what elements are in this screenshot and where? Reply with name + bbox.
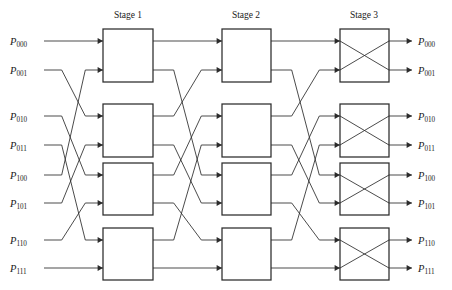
wire-in-1-to-2 bbox=[44, 70, 103, 116]
output-label-001: P001 bbox=[417, 65, 436, 79]
arrowhead-s1s2-3 bbox=[217, 142, 222, 148]
stage-labels-group: Stage 1Stage 2Stage 3 bbox=[114, 10, 378, 20]
wire-s2s3-2-to-1 bbox=[271, 70, 340, 116]
arrowhead-s1s2-2 bbox=[217, 113, 222, 119]
arrowhead-in-6 bbox=[98, 237, 103, 243]
wire-in-6-to-5 bbox=[44, 203, 103, 240]
arrowhead-s1s2-1 bbox=[217, 67, 222, 73]
wire-s1s2-1-to-4 bbox=[153, 70, 222, 175]
wire-s1s2-2-to-1 bbox=[153, 70, 222, 116]
arrowhead-in-1 bbox=[98, 67, 103, 73]
input-label-000: P000 bbox=[9, 36, 28, 50]
arrowhead-in-4 bbox=[98, 172, 103, 178]
wire-s2s3-5-to-6 bbox=[271, 203, 340, 240]
wire-s1s2-3-to-5 bbox=[153, 145, 222, 203]
wire-in-5-to-3 bbox=[44, 145, 103, 203]
output-label-101: P101 bbox=[417, 198, 436, 212]
wire-s2s3-4-to-2 bbox=[271, 116, 340, 175]
arrowhead-in-7 bbox=[98, 265, 103, 271]
wire-s1s2-5-to-6 bbox=[153, 203, 222, 240]
switch-boxes-group bbox=[103, 29, 389, 280]
switch-box-stage1-2[interactable] bbox=[103, 163, 153, 215]
wire-in-3-to-6 bbox=[44, 145, 103, 240]
switch-box-stage2-3[interactable] bbox=[222, 228, 271, 280]
arrowhead-out-2 bbox=[407, 113, 412, 119]
input-label-110: P110 bbox=[9, 235, 27, 249]
arrowhead-s1s2-5 bbox=[217, 200, 222, 206]
switch-box-stage1-0[interactable] bbox=[103, 29, 153, 82]
arrowhead-s2s3-4 bbox=[335, 172, 340, 178]
arrowhead-in-3 bbox=[98, 142, 103, 148]
arrowhead-s2s3-6 bbox=[335, 237, 340, 243]
stage-label-1: Stage 1 bbox=[114, 10, 142, 20]
arrowhead-s2s3-5 bbox=[335, 200, 340, 206]
output-label-110: P110 bbox=[417, 235, 435, 249]
arrowhead-in-5 bbox=[98, 200, 103, 206]
output-label-100: P100 bbox=[417, 170, 436, 184]
arrowhead-out-7 bbox=[407, 265, 412, 271]
arrowhead-out-3 bbox=[407, 142, 412, 148]
output-label-010: P010 bbox=[417, 111, 436, 125]
arrowhead-out-4 bbox=[407, 172, 412, 178]
arrowhead-in-0 bbox=[98, 38, 103, 44]
arrowhead-s1s2-6 bbox=[217, 237, 222, 243]
arrowhead-s2s3-7 bbox=[335, 265, 340, 271]
arrowhead-out-6 bbox=[407, 237, 412, 243]
arrowhead-out-1 bbox=[407, 67, 412, 73]
switch-box-stage2-2[interactable] bbox=[222, 163, 271, 215]
arrowhead-s1s2-7 bbox=[217, 265, 222, 271]
wire-s2s3-6-to-3 bbox=[271, 145, 340, 240]
arrowhead-out-0 bbox=[407, 38, 412, 44]
arrowhead-s2s3-1 bbox=[335, 67, 340, 73]
switch-box-stage1-1[interactable] bbox=[103, 104, 153, 157]
switch-box-stage2-1[interactable] bbox=[222, 104, 271, 157]
input-label-010: P010 bbox=[9, 111, 28, 125]
wire-in-2-to-4 bbox=[44, 116, 103, 175]
output-label-011: P011 bbox=[417, 140, 435, 154]
switch-box-stage1-3[interactable] bbox=[103, 228, 153, 280]
switch-box-stage2-0[interactable] bbox=[222, 29, 271, 82]
wire-s2s3-3-to-5 bbox=[271, 145, 340, 203]
arrowhead-s1s2-0 bbox=[217, 38, 222, 44]
output-label-111: P111 bbox=[417, 263, 435, 277]
wire-in-4-to-1 bbox=[44, 70, 103, 175]
input-label-011: P011 bbox=[9, 140, 27, 154]
arrowhead-s2s3-2 bbox=[335, 113, 340, 119]
input-label-111: P111 bbox=[9, 263, 27, 277]
network-diagram: Stage 1Stage 2Stage 3 P000P001P010P011P1… bbox=[0, 0, 452, 290]
output-label-000: P000 bbox=[417, 36, 436, 50]
stage-label-2: Stage 2 bbox=[232, 10, 260, 20]
wire-s1s2-4-to-2 bbox=[153, 116, 222, 175]
input-label-100: P100 bbox=[9, 170, 28, 184]
wire-s1s2-6-to-3 bbox=[153, 145, 222, 240]
arrowhead-s2s3-3 bbox=[335, 142, 340, 148]
stage-label-3: Stage 3 bbox=[350, 10, 378, 20]
arrowhead-in-2 bbox=[98, 113, 103, 119]
arrowhead-out-5 bbox=[407, 200, 412, 206]
arrowhead-s2s3-0 bbox=[335, 38, 340, 44]
wire-s2s3-1-to-4 bbox=[271, 70, 340, 175]
input-label-001: P001 bbox=[9, 65, 28, 79]
arrowhead-s1s2-4 bbox=[217, 172, 222, 178]
input-label-101: P101 bbox=[9, 198, 28, 212]
